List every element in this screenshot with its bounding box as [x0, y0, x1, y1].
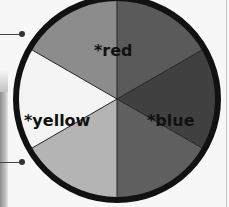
label-yellow: *yellow [24, 111, 91, 130]
color-wheel: *red *yellow *blue [0, 0, 229, 207]
label-red: *red [94, 41, 133, 60]
label-blue: *blue [147, 111, 195, 130]
